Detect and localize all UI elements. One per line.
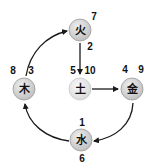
- number-label: 5: [70, 65, 76, 76]
- node-water: 水 1 6: [70, 117, 92, 164]
- edge-water-to-wood: [25, 104, 69, 141]
- number-label: 2: [87, 41, 93, 52]
- node-wood: 木 8 3: [10, 65, 35, 100]
- node-char: 土: [75, 82, 86, 96]
- number-label: 10: [84, 65, 96, 76]
- five-elements-diagram: 火 7 2 土 5 10 木 8 3 金 4 9 水 1 6: [0, 0, 156, 168]
- number-label: 8: [10, 65, 16, 76]
- node-char: 木: [18, 82, 31, 96]
- number-label: 4: [122, 64, 128, 75]
- node-char: 水: [76, 133, 88, 147]
- node-char: 金: [126, 82, 139, 96]
- node-earth: 土 5 10: [69, 65, 96, 100]
- number-label: 6: [79, 153, 85, 164]
- node-fire: 火 7 2: [69, 11, 97, 52]
- number-label: 3: [28, 65, 34, 76]
- node-metal: 金 4 9: [121, 64, 144, 100]
- node-char: 火: [75, 24, 87, 37]
- number-label: 7: [91, 11, 97, 22]
- number-label: 1: [79, 117, 85, 128]
- edge-metal-to-water: [94, 103, 133, 141]
- number-label: 9: [138, 64, 144, 75]
